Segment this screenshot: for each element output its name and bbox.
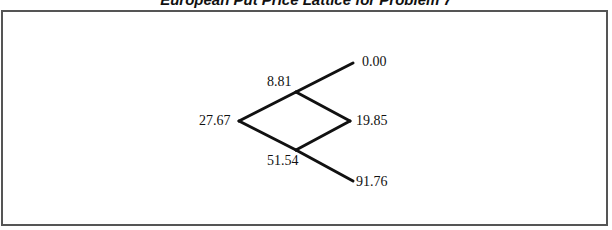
node-down-value: 51.54 [267, 153, 299, 169]
node-up-value: 8.81 [267, 74, 292, 90]
node-up-up-value: 0.00 [362, 54, 387, 70]
binomial-lattice [0, 0, 612, 230]
edge-up-upup [296, 63, 353, 92]
node-up-down-value: 19.85 [356, 113, 388, 129]
node-down-down-value: 91.76 [356, 174, 388, 190]
edge-down-updown [296, 121, 350, 150]
edge-root-up [239, 92, 296, 121]
edge-up-updown [296, 92, 350, 121]
node-root-value: 27.67 [199, 113, 231, 129]
edge-down-downdown [296, 150, 353, 181]
edge-root-down [239, 121, 296, 150]
